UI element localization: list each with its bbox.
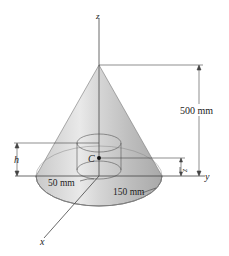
centroid-point xyxy=(97,156,101,160)
cone-diagram: z y x 500 mm h C z 50 mm 150 mm xyxy=(0,0,229,256)
centroid-label: C xyxy=(88,153,95,164)
h-label: h xyxy=(14,154,19,165)
z-axis-label: z xyxy=(95,11,100,21)
inner-radius-label: 50 mm xyxy=(48,178,75,188)
height-label: 500 mm xyxy=(180,105,213,116)
zbar-label-group: z xyxy=(180,167,189,173)
zbar-label: z xyxy=(180,168,189,173)
outer-radius-label: 150 mm xyxy=(113,187,145,197)
x-axis-label: x xyxy=(39,236,45,247)
y-axis-label: y xyxy=(204,171,210,182)
